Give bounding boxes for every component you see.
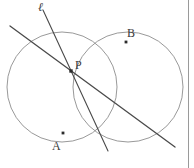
point-b-label: B — [127, 27, 135, 39]
point-a-dot — [62, 132, 65, 135]
point-a-label: A — [52, 140, 61, 152]
figure-canvas — [0, 0, 194, 168]
point-p-dot — [69, 69, 72, 72]
line-ell-label: ℓ — [38, 1, 43, 13]
point-b-dot — [125, 41, 128, 44]
point-p-label: P — [75, 59, 82, 71]
geometry-figure: ℓ P A B — [0, 0, 194, 168]
figure-background — [0, 0, 194, 168]
